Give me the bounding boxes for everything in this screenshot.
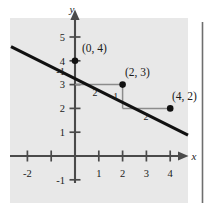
y-tick-label-2: 2: [60, 103, 65, 114]
y-tick-label-minus-one-upper: -1: [56, 66, 65, 77]
slope-rise-label-1: -1: [110, 91, 118, 102]
y-tick-label-5: 5: [60, 32, 65, 43]
y-axis-label: y: [69, 3, 75, 15]
y-tick-label--1: -1: [56, 175, 65, 186]
point-label-4-2: (4, 2): [172, 90, 197, 103]
point-0-4: [72, 58, 79, 65]
slope-run-label-1: 2: [93, 87, 98, 98]
point-2-3: [119, 81, 126, 88]
x-tick-label-2: 2: [120, 168, 125, 179]
point-label-0-4: (0, 4): [82, 42, 107, 55]
y-tick-label-1: 1: [60, 127, 65, 138]
point-label-2-3: (2, 3): [125, 66, 150, 79]
x-tick-label-3: 3: [144, 168, 149, 179]
x-axis-label: x: [191, 150, 197, 162]
slope-run-label-2: 2: [144, 111, 149, 122]
x-tick-label-4: 4: [168, 168, 174, 179]
graph-figure: y x -2 1 2 3 4 5 4 -1 3 2 1 -1 (0, 4) (2…: [0, 0, 215, 215]
point-4-2: [167, 105, 174, 112]
y-tick-label-3: 3: [60, 79, 65, 90]
x-tick-label-1: 1: [96, 168, 101, 179]
x-tick-label--2: -2: [23, 168, 32, 179]
